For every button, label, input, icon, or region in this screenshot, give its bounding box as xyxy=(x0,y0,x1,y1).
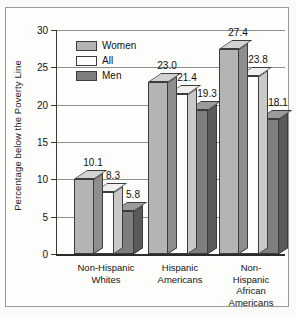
bar-front-face xyxy=(219,49,239,254)
y-axis-tick xyxy=(51,67,56,68)
y-axis-tick-label: 25 xyxy=(37,62,48,73)
y-axis-line xyxy=(56,30,57,256)
bar-side-face xyxy=(168,76,177,254)
bar-women-group-3 xyxy=(219,49,239,254)
value-label: 5.8 xyxy=(126,189,140,200)
category-label-2: Hispanic Americans xyxy=(158,262,203,285)
legend-label: Women xyxy=(102,40,136,51)
y-axis-tick xyxy=(51,217,56,218)
value-label: 18.1 xyxy=(268,97,287,108)
bar-women-group-2 xyxy=(148,82,168,254)
value-label: 8.3 xyxy=(106,170,120,181)
x-axis-line xyxy=(56,254,285,256)
value-label: 10.1 xyxy=(83,157,102,168)
bar-side-face xyxy=(94,173,103,254)
y-axis-tick-label: 5 xyxy=(42,211,48,222)
y-axis-tick-label: 10 xyxy=(37,174,48,185)
y-axis-tick-label: 20 xyxy=(37,99,48,110)
legend-swatch-all xyxy=(76,56,97,66)
bar-front-face xyxy=(148,82,168,254)
bar-side-face xyxy=(239,43,248,254)
y-axis-tick-label: 30 xyxy=(37,25,48,36)
legend-item-all: All xyxy=(76,54,136,67)
value-label: 27.4 xyxy=(228,27,247,38)
y-axis-tick xyxy=(51,105,56,106)
legend-swatch-women xyxy=(76,41,97,51)
y-axis-tick xyxy=(51,30,56,31)
figure-chart-poverty-by-group: Percentage below the Poverty Line 051015… xyxy=(0,0,296,317)
legend-label: All xyxy=(102,55,113,66)
y-axis-tick-label: 15 xyxy=(37,137,48,148)
bar-side-face xyxy=(208,104,217,254)
legend-item-men: Men xyxy=(76,69,136,82)
category-label-1: Non-Hispanic Whites xyxy=(77,262,134,285)
legend-swatch-men xyxy=(76,71,97,81)
value-label: 23.8 xyxy=(248,54,267,65)
legend-label: Men xyxy=(102,70,121,81)
bar-side-face xyxy=(188,88,197,254)
chart-legend: WomenAllMen xyxy=(76,39,136,84)
y-axis-tick-label: 0 xyxy=(42,249,48,260)
bar-women-group-1 xyxy=(74,179,94,254)
y-axis-tick xyxy=(51,179,56,180)
legend-item-women: Women xyxy=(76,39,136,52)
y-axis-tick xyxy=(51,142,56,143)
plot-area: 051015202530 10.18.35.823.021.419.327.42… xyxy=(56,30,285,256)
bar-side-face xyxy=(259,70,268,254)
value-label: 19.3 xyxy=(197,88,216,99)
value-label: 21.4 xyxy=(177,72,196,83)
y-axis-label: Percentage below the Poverty Line xyxy=(12,36,23,236)
bar-front-face xyxy=(74,179,94,254)
y-axis-tick xyxy=(51,254,56,255)
bar-side-face xyxy=(114,186,123,254)
value-label: 23.0 xyxy=(157,60,176,71)
bar-side-face xyxy=(279,113,288,254)
gridline xyxy=(57,30,285,31)
bar-side-face xyxy=(134,205,143,254)
category-label-3: Non-Hispanic African Americans xyxy=(229,262,274,308)
